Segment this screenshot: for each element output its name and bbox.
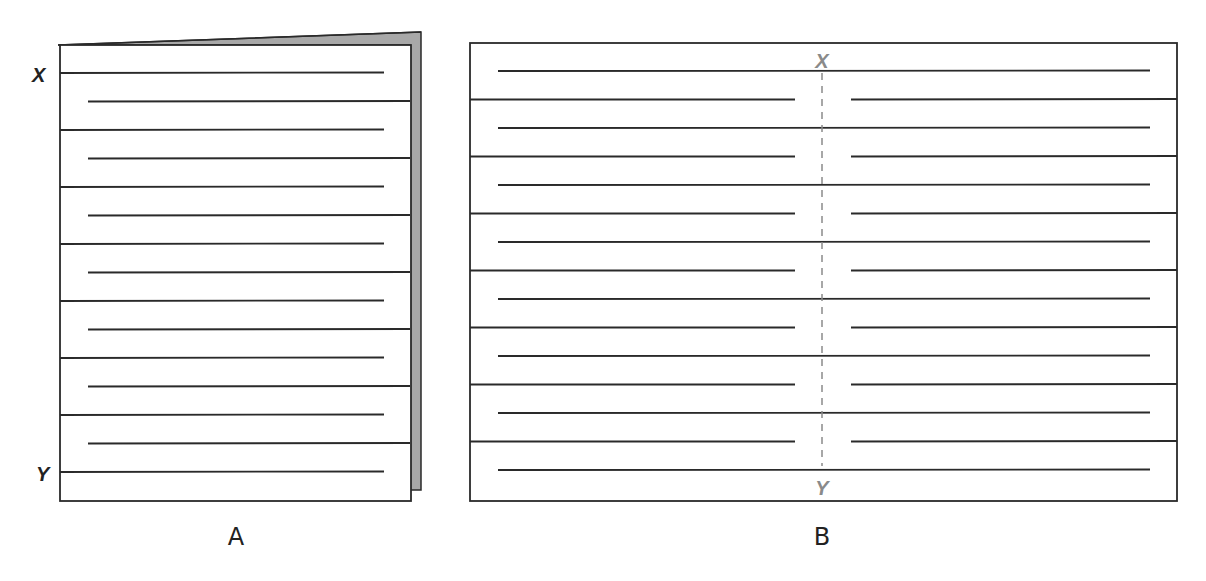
panel-b: X Y B [470, 43, 1177, 551]
ruled-line [60, 244, 384, 245]
unfolded-sheet [470, 43, 1177, 501]
ruled-line [88, 272, 410, 273]
ruled-line [498, 413, 1150, 414]
ruled-line [88, 329, 410, 330]
ruled-line [60, 358, 384, 359]
ruled-line [60, 130, 384, 131]
ruled-line [851, 441, 1177, 442]
ruled-line [498, 128, 1150, 129]
ruled-line [851, 156, 1177, 157]
ruled-line [851, 327, 1177, 328]
ruled-line [498, 299, 1150, 300]
label-y-a: Y [36, 463, 51, 485]
ruled-line [60, 472, 384, 473]
ruled-line [498, 356, 1150, 357]
ruled-line [88, 158, 410, 159]
diagram-canvas: X Y A X Y B [0, 0, 1206, 581]
ruled-line [498, 185, 1150, 186]
ruled-line [88, 443, 410, 444]
ruled-line [498, 242, 1150, 243]
ruled-line [88, 215, 410, 216]
caption-a: A [228, 523, 245, 551]
label-y-b: Y [815, 477, 830, 499]
ruled-line [88, 386, 410, 387]
ruled-line [60, 415, 384, 416]
ruled-line [498, 470, 1150, 471]
label-x-b: X [814, 50, 830, 72]
ruled-line [851, 270, 1177, 271]
ruled-line [851, 384, 1177, 385]
ruled-line [88, 101, 410, 102]
ruled-line [851, 99, 1177, 100]
ruled-line [60, 301, 384, 302]
caption-b: B [814, 523, 830, 551]
label-x-a: X [31, 64, 47, 86]
ruled-line [851, 213, 1177, 214]
panel-a: X Y A [31, 32, 421, 551]
ruled-line [60, 187, 384, 188]
ruled-line [60, 73, 384, 74]
